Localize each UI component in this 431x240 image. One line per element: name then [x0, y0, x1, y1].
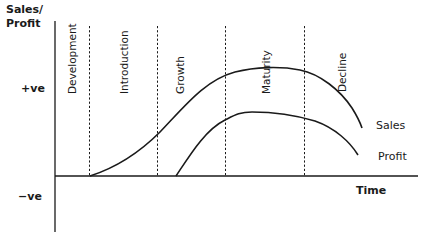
stage-label-maturity: Maturity: [260, 50, 272, 94]
y-axis-title-line2: Profit: [6, 17, 40, 30]
profit-curve: [176, 112, 358, 176]
stage-label-growth: Growth: [174, 56, 186, 94]
profit-curve-label: Profit: [378, 150, 407, 163]
stage-label-development: Development: [66, 23, 78, 94]
stage-label-introduction: Introduction: [118, 30, 130, 94]
sales-curve-label: Sales: [376, 119, 406, 132]
stage-label-decline: Decline: [336, 53, 348, 92]
positive-label: +ve: [21, 82, 45, 95]
negative-label: −ve: [18, 190, 42, 203]
x-axis-title: Time: [356, 184, 386, 197]
y-axis-title-line1: Sales/: [6, 3, 44, 16]
sales-curve: [90, 68, 362, 176]
product-life-cycle-diagram: Sales/ Profit +ve −ve Development Introd…: [0, 0, 431, 240]
